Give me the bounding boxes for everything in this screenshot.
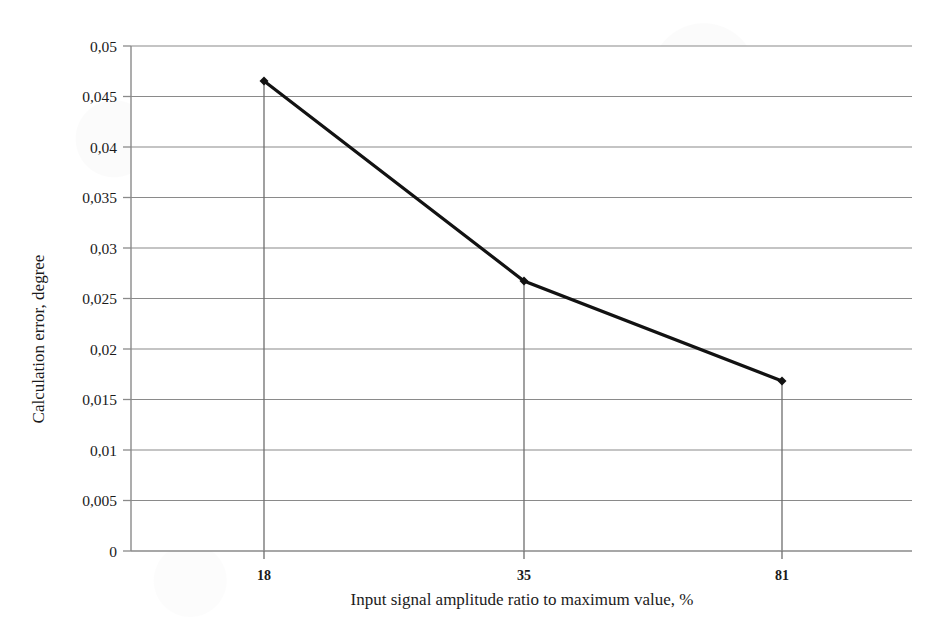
x-tick-label-35: 35 <box>517 568 531 583</box>
y-tick-label-0.005: 0,005 <box>82 492 117 509</box>
x-axis-tick-labels: 18 35 81 <box>257 568 789 583</box>
x-tick-label-81: 81 <box>775 568 789 583</box>
y-tick-label-0.05: 0,05 <box>90 38 117 55</box>
x-tick-label-18: 18 <box>257 568 271 583</box>
y-tick-label-0.015: 0,015 <box>82 391 117 408</box>
y-axis-title: Calculation error, degree <box>29 255 48 424</box>
y-tick-label-0: 0 <box>109 543 117 560</box>
x-axis-ticks <box>264 551 782 559</box>
y-axis-tick-labels: 0,05 0,045 0,04 0,035 0,03 0,025 0,02 0,… <box>82 38 117 560</box>
y-tick-label-0.01: 0,01 <box>90 442 117 459</box>
y-tick-label-0.04: 0,04 <box>90 139 117 156</box>
x-axis-title: Input signal amplitude ratio to maximum … <box>351 590 694 609</box>
y-tick-label-0.03: 0,03 <box>90 240 117 257</box>
y-tick-label-0.025: 0,025 <box>82 290 117 307</box>
y-axis-ticks <box>123 46 131 551</box>
y-tick-label-0.045: 0,045 <box>82 88 117 105</box>
line-chart: 0,05 0,045 0,04 0,035 0,03 0,025 0,02 0,… <box>0 0 951 631</box>
y-tick-label-0.02: 0,02 <box>90 341 117 358</box>
y-tick-label-0.035: 0,035 <box>82 189 117 206</box>
chart-page: 0,05 0,045 0,04 0,035 0,03 0,025 0,02 0,… <box>0 0 951 631</box>
